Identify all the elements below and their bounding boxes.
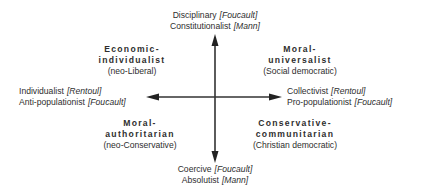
- quadrant-subtitle: (Christian democratic): [240, 140, 350, 151]
- right-axis-label: Collectivist[Rentoul] Pro-populationist[…: [287, 86, 392, 108]
- quadrant-subtitle: (neo-Liberal): [82, 66, 182, 77]
- quadrant-bottom-right: Conservative- communitarian (Christian d…: [240, 118, 350, 151]
- term: Coercive: [178, 164, 212, 174]
- term: Anti-populationist: [19, 97, 85, 107]
- bottom-axis-line-1: Coercive[Foucault]: [150, 164, 280, 175]
- term: Constitutionalist: [170, 21, 231, 31]
- left-axis-line-2: Anti-populationist[Foucault]: [19, 97, 126, 108]
- right-axis-line-1: Collectivist[Rentoul]: [287, 86, 392, 97]
- top-axis-line-1: Disciplinary[Foucault]: [150, 10, 280, 21]
- quadrant-title-line-2: universalist: [250, 55, 350, 66]
- top-axis-label: Disciplinary[Foucault] Constitutionalist…: [150, 10, 280, 32]
- citation: [Mann]: [234, 21, 260, 31]
- quadrant-top-left: Economic- individualist (neo-Liberal): [82, 44, 182, 77]
- left-axis-label: Individualist[Rentoul] Anti-populationis…: [19, 86, 126, 108]
- citation: [Mann]: [222, 175, 248, 185]
- quadrant-title-line-2: communitarian: [240, 129, 350, 140]
- bottom-axis-line-2: Absolutist[Mann]: [150, 175, 280, 186]
- term: Absolutist: [182, 175, 219, 185]
- citation: [Foucault]: [215, 164, 253, 174]
- quadrant-subtitle: (neo-Conservative): [90, 140, 190, 151]
- citation: [Rentoul]: [331, 86, 365, 96]
- term: Disciplinary: [173, 10, 217, 20]
- vertical-axis-arrow: [212, 34, 219, 163]
- horizontal-axis-arrow: [146, 94, 282, 101]
- quadrant-title-line-1: Conservative-: [240, 118, 350, 129]
- quadrant-title-line-1: Moral-: [90, 118, 190, 129]
- quadrant-top-right: Moral- universalist (Social democratic): [250, 44, 350, 77]
- bottom-axis-label: Coercive[Foucault] Absolutist[Mann]: [150, 164, 280, 186]
- term: Pro-populationist: [287, 97, 352, 107]
- political-typology-diagram: Disciplinary[Foucault] Constitutionalist…: [0, 0, 430, 191]
- quadrant-title-line-1: Economic-: [82, 44, 182, 55]
- quadrant-bottom-left: Moral- authoritarian (neo-Conservative): [90, 118, 190, 151]
- quadrant-title-line-1: Moral-: [250, 44, 350, 55]
- quadrant-subtitle: (Social democratic): [250, 66, 350, 77]
- citation: [Foucault]: [220, 10, 258, 20]
- quadrant-title-line-2: authoritarian: [90, 129, 190, 140]
- quadrant-title-line-2: individualist: [82, 55, 182, 66]
- citation: [Foucault]: [88, 97, 126, 107]
- term: Individualist: [19, 86, 64, 96]
- citation: [Foucault]: [355, 97, 393, 107]
- term: Collectivist: [287, 86, 328, 96]
- citation: [Rentoul]: [67, 86, 101, 96]
- left-axis-line-1: Individualist[Rentoul]: [19, 86, 126, 97]
- right-axis-line-2: Pro-populationist[Foucault]: [287, 97, 392, 108]
- top-axis-line-2: Constitutionalist[Mann]: [150, 21, 280, 32]
